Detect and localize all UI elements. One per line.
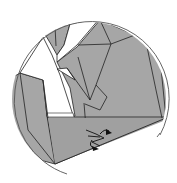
inset-circle-tail [157, 133, 160, 137]
paper-white-strip [47, 113, 74, 117]
origami-diagram [0, 0, 177, 183]
circular-inset [8, 18, 170, 174]
